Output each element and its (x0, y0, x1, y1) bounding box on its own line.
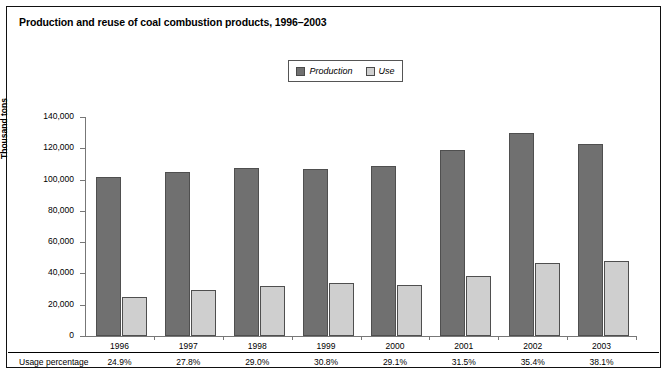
x-axis-tick-label: 2000 (361, 341, 430, 351)
x-axis-tick-label: 2002 (498, 341, 567, 351)
bar-group (440, 117, 491, 336)
chart-figure: Production and reuse of coal combustion … (6, 6, 661, 368)
usage-row-divider (8, 352, 659, 353)
y-axis-tick-label: 40,000 (48, 267, 74, 277)
x-axis-tick-mark (567, 336, 568, 340)
x-axis-tick-mark (636, 336, 637, 340)
bar-production[interactable] (165, 172, 190, 336)
legend-label-production: Production (309, 66, 352, 76)
bar-group (509, 117, 560, 336)
bar-use[interactable] (466, 276, 491, 336)
bar-production[interactable] (371, 166, 396, 336)
bar-use[interactable] (397, 285, 422, 336)
bar-use[interactable] (604, 261, 629, 336)
y-axis-title: Thousand tons (0, 98, 9, 159)
usage-percentage-value: 30.8% (292, 357, 361, 367)
bar-use[interactable] (329, 283, 354, 336)
x-axis-tick-mark (223, 336, 224, 340)
y-axis-tick-label: 60,000 (48, 236, 74, 246)
bar-use[interactable] (191, 290, 216, 336)
usage-percentage-value: 29.1% (361, 357, 430, 367)
chart-legend: Production Use (288, 60, 403, 82)
x-axis-tick-mark (498, 336, 499, 340)
y-axis-tick-label: 100,000 (43, 174, 74, 184)
plot-area (85, 117, 636, 336)
x-axis-tick-mark (429, 336, 430, 340)
bar-production[interactable] (578, 144, 603, 336)
legend-swatch-use (366, 67, 375, 76)
usage-percentage-value: 27.8% (154, 357, 223, 367)
y-axis-tick-label: 80,000 (48, 205, 74, 215)
x-axis-tick-mark (292, 336, 293, 340)
usage-percentage-value: 31.5% (429, 357, 498, 367)
legend-swatch-production (296, 67, 305, 76)
bar-use[interactable] (535, 263, 560, 336)
bar-production[interactable] (303, 169, 328, 336)
x-axis-tick-label: 2001 (429, 341, 498, 351)
x-axis-tick-label: 1999 (292, 341, 361, 351)
x-axis-tick-label: 2003 (567, 341, 636, 351)
bar-group (165, 117, 216, 336)
legend-item-use: Use (366, 66, 395, 76)
x-axis-tick-label: 1998 (223, 341, 292, 351)
chart-title: Production and reuse of coal combustion … (19, 16, 326, 28)
y-axis-tick-label: 20,000 (48, 299, 74, 309)
usage-percentage-value: 29.0% (223, 357, 292, 367)
bar-use[interactable] (260, 286, 285, 336)
bar-production[interactable] (509, 133, 534, 337)
legend-item-production: Production (296, 66, 352, 76)
bar-group (578, 117, 629, 336)
x-axis-tick-mark (154, 336, 155, 340)
usage-percentage-value: 24.9% (85, 357, 154, 367)
bar-group (303, 117, 354, 336)
usage-percentage-value: 38.1% (567, 357, 636, 367)
x-axis-tick-mark (361, 336, 362, 340)
bar-group (371, 117, 422, 336)
bar-production[interactable] (96, 177, 121, 336)
y-axis-tick-label: 140,000 (43, 111, 74, 121)
y-axis-tick-label: 0 (69, 330, 74, 340)
bar-production[interactable] (440, 150, 465, 336)
x-axis-tick-label: 1996 (85, 341, 154, 351)
bar-production[interactable] (234, 168, 259, 336)
x-axis-tick-label: 1997 (154, 341, 223, 351)
legend-label-use: Use (379, 66, 395, 76)
bar-group (96, 117, 147, 336)
y-axis-tick-label: 120,000 (43, 142, 74, 152)
bar-use[interactable] (122, 297, 147, 336)
usage-percentage-value: 35.4% (498, 357, 567, 367)
bar-group (234, 117, 285, 336)
usage-row-label: Usage percentage (19, 357, 88, 367)
